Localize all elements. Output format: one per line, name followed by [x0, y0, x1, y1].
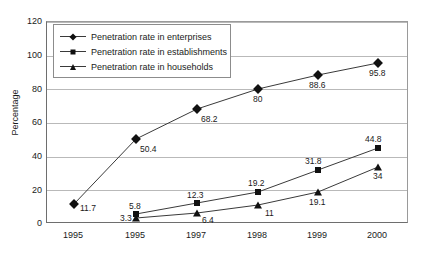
value-label-establishments-5-8: 5.8: [129, 202, 141, 211]
y-tick-label-0: 0: [8, 219, 42, 228]
value-label-enterprises-50-4: 50.4: [140, 145, 157, 154]
value-label-households-11: 11: [265, 209, 274, 218]
x-tick-label-3: 1997: [173, 230, 219, 240]
data-point-households-2000: [374, 164, 382, 171]
value-label-households-6-4: 6.4: [202, 216, 214, 225]
value-label-enterprises-95-8: 95.8: [369, 69, 386, 78]
value-label-establishments-19-2: 19.2: [248, 179, 265, 188]
data-point-households-1997: [193, 210, 201, 217]
legend-label-households: Penetration rate in households: [91, 62, 213, 72]
data-point-establishments-2000: [375, 145, 381, 151]
value-label-enterprises-68-2: 68.2: [201, 115, 218, 124]
y-tick-label-80: 80: [8, 85, 42, 94]
legend-item-establishments: Penetration rate in establishments: [60, 44, 226, 59]
data-point-establishments-1997: [194, 200, 200, 206]
diamond-marker-icon: [60, 31, 86, 43]
value-label-establishments-44-8: 44.8: [365, 135, 382, 144]
y-tick-label-100: 100: [8, 51, 42, 60]
triangle-marker-icon: [60, 61, 86, 73]
line-chart: Percentage 120 100 80 60 40 20 0 1995 19…: [0, 0, 421, 255]
x-tick-label-4: 1998: [234, 230, 280, 240]
y-axis-title: Percentage: [11, 68, 20, 158]
value-label-enterprises-88-6: 88.6: [309, 81, 326, 90]
legend-item-households: Penetration rate in households: [60, 59, 226, 74]
data-point-establishments-1998: [255, 189, 261, 195]
y-tick-label-120: 120: [8, 17, 42, 26]
value-label-households-3-3: 3.3: [120, 214, 132, 223]
data-point-households-1999: [314, 189, 322, 196]
value-label-households-34: 34: [373, 172, 382, 181]
y-tick-label-60: 60: [8, 118, 42, 127]
value-label-establishments-31-8: 31.8: [305, 157, 322, 166]
data-point-households-1995b: [132, 215, 140, 222]
x-tick-label-2: 1995: [112, 230, 158, 240]
x-tick-label-1: 1995: [50, 230, 96, 240]
data-point-households-1998: [254, 202, 262, 209]
value-label-enterprises-11-7: 11.7: [80, 204, 96, 213]
series-line-enterprises: [74, 63, 378, 204]
x-tick-label-5: 1999: [294, 230, 340, 240]
value-label-enterprises-80: 80: [253, 95, 262, 104]
data-point-establishments-1999: [315, 167, 321, 173]
value-label-establishments-12-3: 12.3: [187, 191, 204, 200]
x-tick-label-6: 2000: [354, 230, 400, 240]
legend-label-enterprises: Penetration rate in enterprises: [91, 32, 212, 42]
value-label-households-19-1: 19.1: [309, 198, 326, 207]
legend-item-enterprises: Penetration rate in enterprises: [60, 29, 226, 44]
legend-label-establishments: Penetration rate in establishments: [91, 47, 227, 57]
y-tick-label-20: 20: [8, 186, 42, 195]
y-tick-label-40: 40: [8, 152, 42, 161]
square-marker-icon: [60, 46, 86, 58]
legend: Penetration rate in enterprises Penetrat…: [53, 24, 231, 78]
